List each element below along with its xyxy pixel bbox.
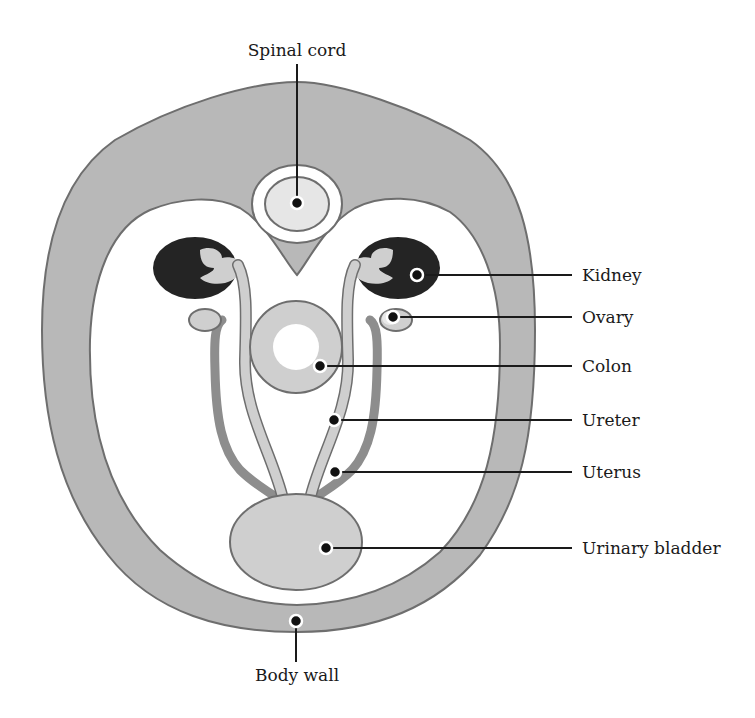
colon-lumen bbox=[273, 324, 319, 370]
left-ovary bbox=[189, 309, 221, 331]
urinary-bladder bbox=[230, 494, 362, 590]
label-urinary-bladder: Urinary bladder bbox=[582, 538, 721, 558]
anatomy-diagram: Spinal cord Kidney Ovary Colon Ureter Ut… bbox=[0, 0, 755, 718]
label-spinal-cord: Spinal cord bbox=[248, 40, 347, 60]
label-uterus: Uterus bbox=[582, 462, 641, 482]
label-kidney: Kidney bbox=[582, 265, 642, 285]
label-colon: Colon bbox=[582, 356, 632, 376]
label-ovary: Ovary bbox=[582, 307, 634, 327]
label-body-wall: Body wall bbox=[255, 665, 339, 685]
label-ureter: Ureter bbox=[582, 410, 640, 430]
leader-body-wall bbox=[290, 615, 302, 662]
